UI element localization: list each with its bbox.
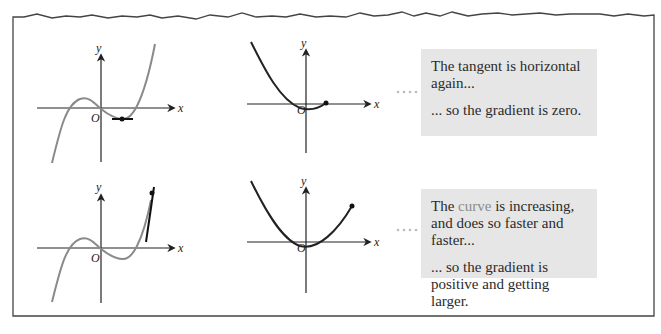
- origin-label: O: [91, 111, 100, 125]
- tangent-point: [150, 191, 155, 196]
- gradient-curve: [251, 42, 326, 109]
- figure: x y O x y O x y O x y O: [0, 0, 661, 334]
- y-axis-label: y: [95, 180, 102, 194]
- gradient-point: [350, 204, 355, 209]
- note-line-1: The tangent is horizontal again...: [431, 58, 587, 92]
- note-line-1: The curve is increasing, and does so fas…: [431, 198, 587, 249]
- row2-connector-dots: [397, 229, 418, 232]
- gradient-curve: [251, 181, 352, 247]
- note-increasing-curve: The curve is increasing, and does so fas…: [421, 189, 597, 278]
- note-line-2: ... so the gradient is zero.: [431, 102, 587, 119]
- highlighted-word-curve: curve: [458, 198, 491, 214]
- note-line-2: ... so the gradient is positive and gett…: [431, 259, 587, 310]
- x-axis-label: x: [373, 97, 380, 111]
- row1-gradient-graph: x y O: [247, 36, 380, 153]
- row2-function-graph: x y O: [37, 180, 184, 303]
- note-text: The: [431, 198, 458, 214]
- origin-label: O: [297, 241, 306, 255]
- x-axis-label: x: [177, 241, 184, 255]
- cubic-curve: [52, 44, 155, 163]
- y-axis-label: y: [300, 36, 307, 50]
- row2-gradient-graph: x y O: [247, 174, 380, 293]
- x-axis-label: x: [373, 235, 380, 249]
- y-axis-label: y: [95, 41, 102, 55]
- row1-connector-dots: [397, 91, 418, 94]
- gradient-point: [324, 101, 329, 106]
- y-axis-label: y: [300, 174, 307, 188]
- tangent-point: [120, 117, 125, 122]
- origin-label: O: [91, 251, 100, 265]
- x-axis-label: x: [177, 101, 184, 115]
- row1-function-graph: x y O: [37, 41, 184, 163]
- note-horizontal-tangent: The tangent is horizontal again... ... s…: [421, 49, 597, 136]
